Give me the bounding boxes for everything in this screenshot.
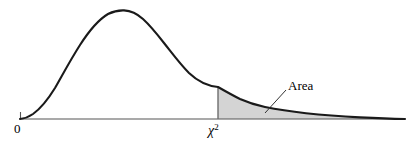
chi-square-critical-value-label: χ2 [208,122,219,138]
chi-square-figure: 0 χ2 Area [0,0,414,153]
chi-exponent: 2 [214,122,219,132]
chi-square-density-curve [20,10,405,119]
origin-axis-label: 0 [14,122,21,135]
area-callout-label: Area [288,79,313,92]
chi-square-distribution-plot [0,0,414,153]
